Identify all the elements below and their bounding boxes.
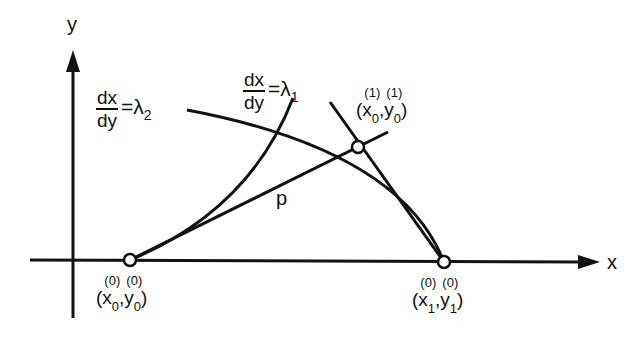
- lambda2-subscript: 2: [144, 107, 152, 123]
- point-p1-marker: [438, 256, 450, 268]
- p0-y-symbol: y: [124, 287, 134, 308]
- point-new-marker: [352, 141, 364, 153]
- p1-x-sub: 1: [428, 301, 435, 316]
- p0-y-sup: (0): [126, 274, 142, 287]
- x-axis-label: x: [607, 252, 617, 272]
- paren-close: ): [141, 287, 147, 308]
- p1-x: x(0)1: [418, 290, 435, 309]
- pnew-x-sup: (1): [364, 86, 380, 99]
- y-axis-arrow-icon: [66, 50, 80, 72]
- point-p0-marker: [124, 254, 136, 266]
- lambda2-denominator: dy: [96, 110, 118, 130]
- pnew-y-symbol: y: [384, 99, 394, 120]
- pnew-x-sub: 0: [372, 111, 379, 126]
- p1-y-sub: 1: [450, 301, 457, 316]
- point-p0-label: (x(0)0,y(0)0): [96, 288, 147, 307]
- lambda1-denominator: dy: [243, 92, 265, 112]
- p1-y-symbol: y: [440, 289, 450, 310]
- lambda2-curve: [187, 110, 444, 262]
- y-axis-label: y: [67, 14, 77, 34]
- lambda1-fraction: dx dy: [243, 70, 265, 112]
- p0-x-sub: 0: [112, 299, 119, 314]
- p1-y: y(0)1: [440, 290, 457, 309]
- chord-p: [130, 132, 388, 260]
- p0-x-sup: (0): [104, 274, 120, 287]
- y-axis: [66, 50, 80, 318]
- p0-x: x(0)0: [102, 288, 119, 307]
- lambda2-label: dx dy =λ2: [96, 88, 152, 130]
- lambda1-equation: =λ1: [268, 78, 299, 104]
- lambda2-equals: =λ: [121, 95, 144, 118]
- x-axis-arrow-icon: [578, 255, 600, 269]
- p1-x-sup: (0): [420, 276, 436, 289]
- lambda1-subscript: 1: [291, 89, 299, 105]
- pnew-x-symbol: x: [362, 99, 372, 120]
- point-p1-label: (x(0)1,y(0)1): [412, 290, 463, 309]
- pnew-y-sup: (1): [386, 86, 402, 99]
- lambda2-fraction: dx dy: [96, 88, 118, 130]
- pnew-x: x(1)0: [362, 100, 379, 119]
- lambda2-numerator: dx: [96, 88, 118, 110]
- lambda1-label: dx dy =λ1: [243, 70, 299, 112]
- lambda1-equals: =λ: [268, 77, 291, 100]
- lambda2-straight-line: [330, 102, 444, 262]
- lambda2-equation: =λ2: [121, 96, 152, 122]
- lambda1-curve: [130, 98, 293, 260]
- p0-y-sub: 0: [134, 299, 141, 314]
- paren-close: ): [401, 99, 407, 120]
- p0-x-symbol: x: [102, 287, 112, 308]
- pnew-y-sub: 0: [394, 111, 401, 126]
- point-new-label: (x(1)0,y(1)0): [356, 100, 407, 119]
- chord-p-label: p: [276, 188, 287, 208]
- x-axis: [30, 255, 600, 269]
- p1-x-symbol: x: [418, 289, 428, 310]
- p0-y: y(0)0: [124, 288, 141, 307]
- pnew-y: y(1)0: [384, 100, 401, 119]
- p1-y-sup: (0): [442, 276, 458, 289]
- paren-close: ): [457, 289, 463, 310]
- lambda1-numerator: dx: [243, 70, 265, 92]
